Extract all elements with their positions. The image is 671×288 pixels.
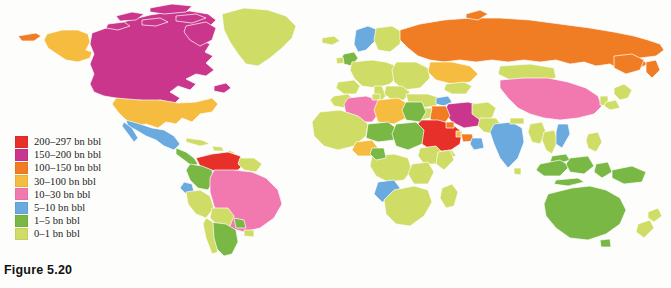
- region-uruguay: [244, 230, 254, 237]
- legend-item: 200–297 bn bbl: [15, 135, 133, 148]
- legend-label-5-10: 5–10 bn bbl: [34, 202, 85, 213]
- legend-swatch-200-297: [15, 136, 28, 148]
- legend-swatch-0-1: [15, 228, 28, 240]
- legend-item: 30–100 bn bbl: [15, 175, 133, 188]
- legend-swatch-30-100: [15, 175, 28, 187]
- legend-swatch-10-30: [15, 188, 28, 200]
- legend-label-0-1: 0–1 bn bbl: [34, 228, 80, 239]
- region-hispaniola: [212, 146, 224, 151]
- region-sri-lanka: [514, 168, 521, 175]
- legend-label-1-5: 1–5 bn bbl: [34, 215, 80, 226]
- figure-world-oil-reserves: 200–297 bn bbl 150–200 bn bbl 100–150 bn…: [0, 0, 671, 288]
- legend-item: 100–150 bn bbl: [15, 161, 133, 174]
- region-nepal: [510, 118, 524, 124]
- legend-swatch-100-150: [15, 162, 28, 174]
- region-qatar: [456, 131, 461, 137]
- legend-label-100-150: 100–150 bn bbl: [34, 162, 101, 173]
- legend-swatch-1-5: [15, 215, 28, 227]
- legend-label-200-297: 200–297 bn bbl: [34, 136, 101, 147]
- legend-item: 10–30 bn bbl: [15, 188, 133, 201]
- legend-item: 5–10 bn bbl: [15, 201, 133, 214]
- legend-item: 1–5 bn bbl: [15, 214, 133, 227]
- region-niger-chad: [366, 122, 396, 142]
- region-ireland: [336, 57, 344, 64]
- legend-swatch-5-10: [15, 202, 28, 214]
- legend-item: 150–200 bn bbl: [15, 148, 133, 161]
- region-kuwait: [446, 122, 454, 128]
- legend-swatch-150-200: [15, 149, 28, 161]
- map-legend: 200–297 bn bbl 150–200 bn bbl 100–150 bn…: [15, 135, 133, 241]
- legend-label-30-100: 30–100 bn bbl: [34, 176, 96, 187]
- legend-label-10-30: 10–30 bn bbl: [34, 189, 91, 200]
- region-tunisia: [372, 94, 380, 100]
- figure-caption: Figure 5.20: [4, 263, 72, 277]
- legend-label-150-200: 150–200 bn bbl: [34, 149, 101, 160]
- region-tasmania: [600, 239, 611, 247]
- world-map: 200–297 bn bbl 150–200 bn bbl 100–150 bn…: [0, 0, 671, 258]
- legend-item: 0–1 bn bbl: [15, 227, 133, 240]
